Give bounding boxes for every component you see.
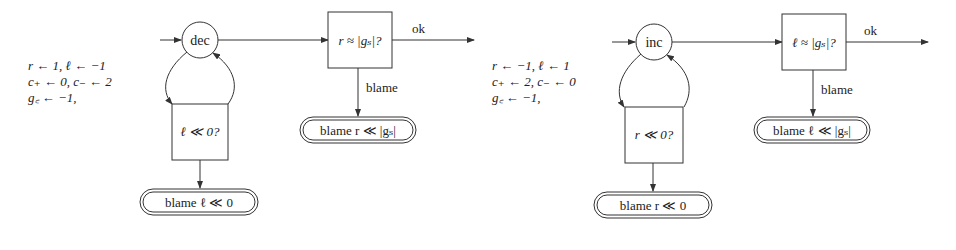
right-init-line-2: c₊ ← 2, c₋ ← 0	[492, 74, 576, 89]
right-terminal-right-label: blame ℓ ≪ |gₛ|	[773, 123, 851, 138]
left-init-line-1: r ← 1, ℓ ← −1	[28, 58, 106, 73]
right-check-box: ℓ ≈ |gₛ|?	[782, 14, 846, 70]
left-state-label: dec	[190, 33, 209, 48]
left-terminal-right-label: blame r ≪ |gₛ|	[320, 123, 396, 138]
left-init-line-3: g꜀ ← −1,	[28, 90, 77, 105]
right-loop-arc-up	[667, 55, 689, 107]
left-terminal-bottom-label: blame ℓ ≪ 0	[165, 195, 233, 210]
right-blame-terminal-bottom: blame r ≪ 0	[594, 192, 712, 218]
left-check-label: r ≈ |gₛ|?	[338, 33, 382, 48]
right-blame-edge-label: blame	[821, 82, 853, 97]
left-init-line-2: c₊ ← 0, c₋ ← 2	[28, 74, 112, 89]
right-loop-check-box: r ≪ 0?	[625, 107, 683, 163]
right-blame-terminal-right: blame ℓ ≪ |gₛ|	[754, 117, 870, 143]
left-ok-label: ok	[412, 21, 426, 36]
right-terminal-bottom-label: blame r ≪ 0	[620, 198, 686, 213]
left-check-box: r ≈ |gₛ|?	[328, 12, 392, 68]
left-loop-check-box: ℓ ≪ 0?	[172, 104, 228, 160]
right-state-inc: inc	[636, 24, 672, 60]
right-state-label: inc	[645, 35, 662, 50]
right-initial-assignments: r ← −1, ℓ ← 1 c₊ ← 2, c₋ ← 0 g꜀ ← −1,	[492, 58, 576, 105]
left-loop-arc-down	[166, 52, 187, 104]
right-check-label: ℓ ≈ |gₛ|?	[792, 35, 836, 50]
left-blame-edge-label: blame	[366, 80, 398, 95]
right-init-line-3: g꜀ ← −1,	[492, 90, 541, 105]
left-flowchart: r ← 1, ℓ ← −1 c₊ ← 0, c₋ ← 2 g꜀ ← −1, de…	[28, 12, 474, 215]
right-ok-label: ok	[864, 23, 878, 38]
left-loop-arc-up	[213, 53, 234, 104]
right-flowchart: r ← −1, ℓ ← 1 c₊ ← 2, c₋ ← 0 g꜀ ← −1, in…	[492, 14, 928, 218]
right-init-line-1: r ← −1, ℓ ← 1	[492, 58, 570, 73]
left-state-dec: dec	[182, 22, 218, 58]
left-loop-check-label: ℓ ≪ 0?	[181, 124, 220, 139]
right-loop-check-label: r ≪ 0?	[635, 127, 674, 142]
left-initial-assignments: r ← 1, ℓ ← −1 c₊ ← 0, c₋ ← 2 g꜀ ← −1,	[28, 58, 112, 105]
diagram-canvas: r ← 1, ℓ ← −1 c₊ ← 0, c₋ ← 2 g꜀ ← −1, de…	[0, 0, 956, 250]
right-loop-arc-down	[619, 54, 641, 107]
left-blame-terminal-bottom: blame ℓ ≪ 0	[140, 189, 258, 215]
left-blame-terminal-right: blame r ≪ |gₛ|	[300, 117, 416, 143]
